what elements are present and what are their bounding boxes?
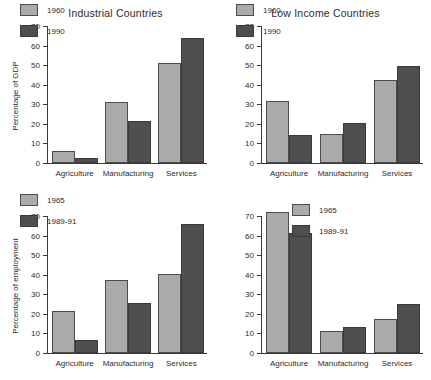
y-tick-mark [43,255,47,256]
bar [105,102,128,163]
y-tick-label: 20 [245,309,254,318]
bar-group: Services [374,26,420,163]
y-tick-label: 10 [245,329,254,338]
x-tick-label: Services [166,359,197,368]
y-tick-label: 20 [245,119,254,128]
y-tick-mark [43,143,47,144]
bar-group: Manufacturing [320,26,366,163]
y-tick-mark [43,294,47,295]
bar [320,134,343,163]
bar [52,311,75,353]
y-tick-mark [257,314,261,315]
bar-group: Services [158,26,204,163]
x-tick-label: Manufacturing [318,169,369,178]
legend-item: 1990 [20,25,65,37]
y-tick-label: 0 [36,159,40,168]
bar [320,331,343,353]
y-tick-mark [43,104,47,105]
x-tick-label: Agriculture [270,169,308,178]
x-tick-label: Agriculture [270,359,308,368]
y-tick-mark [257,85,261,86]
y-tick-mark [257,255,261,256]
legend-label: 1990 [263,27,281,36]
panel-lowincome-employment: 010203040506070 AgricultureManufacturing… [216,190,431,380]
x-axis-line [261,163,423,164]
x-tick-label: Manufacturing [103,169,154,178]
plot-area: 010203040506070 AgricultureManufacturing… [47,216,207,354]
legend-swatch [20,194,38,206]
bar [343,123,366,163]
legend: 19601990 [20,4,65,46]
y-tick-label: 60 [245,231,254,240]
bar-group: Agriculture [52,216,98,353]
y-tick-mark [43,85,47,86]
y-tick-mark [257,333,261,334]
y-tick-mark [43,163,47,164]
y-tick-label: 30 [31,290,40,299]
x-tick-label: Agriculture [56,359,94,368]
y-tick-label: 50 [245,61,254,70]
legend-swatch [236,25,254,37]
bar [266,101,289,163]
bar [52,151,75,163]
y-tick-label: 70 [245,212,254,221]
y-tick-mark [43,65,47,66]
y-tick-label: 10 [245,139,254,148]
bar [181,224,204,353]
legend-swatch [292,204,310,216]
y-tick-mark [257,353,261,354]
y-tick-label: 50 [31,251,40,260]
y-tick-mark [257,124,261,125]
bar [75,340,98,353]
x-axis-line [261,353,423,354]
plot-area: 010203040506070 AgricultureManufacturing… [261,26,423,164]
bar [128,121,151,163]
bar [158,274,181,353]
x-axis-line [47,353,207,354]
legend-swatch [20,215,38,227]
y-tick-label: 50 [31,61,40,70]
panel-lowincome-gdp: Low Income Countries 010203040506070 Agr… [216,0,431,190]
bar-group: Agriculture [266,26,312,163]
legend-item: 1989-91 [292,225,348,237]
legend-swatch [236,4,254,16]
bar [181,38,204,163]
x-tick-label: Manufacturing [103,359,154,368]
y-axis-label: Percentage of GDP [11,36,20,156]
bar [75,158,98,163]
y-tick-label: 30 [245,100,254,109]
y-tick-mark [43,124,47,125]
y-tick-label: 50 [245,251,254,260]
y-tick-label: 40 [245,270,254,279]
legend-item: 1960 [20,4,65,16]
y-tick-mark [257,236,261,237]
legend-swatch [20,25,38,37]
legend-label: 1960 [263,6,281,15]
bar [105,280,128,353]
legend-label: 1990 [47,27,65,36]
y-tick-mark [43,353,47,354]
legend-swatch [20,4,38,16]
legend-item: 1989-91 [20,215,76,227]
legend-label: 1965 [47,196,65,205]
y-tick-mark [43,275,47,276]
y-tick-label: 40 [245,80,254,89]
x-tick-label: Services [382,359,413,368]
x-tick-label: Services [166,169,197,178]
y-tick-label: 30 [31,100,40,109]
legend-label: 1965 [319,206,337,215]
bar-group: Services [158,216,204,353]
y-tick-mark [257,65,261,66]
y-tick-label: 10 [31,329,40,338]
legend-swatch [292,225,310,237]
y-tick-label: 20 [31,119,40,128]
bar [397,304,420,353]
y-axis-label: Percentage of employment [11,226,20,346]
x-tick-label: Manufacturing [318,359,369,368]
bar-group: Manufacturing [105,26,151,163]
x-axis-line [47,163,207,164]
legend-item: 1960 [236,4,281,16]
bar-group: Agriculture [52,26,98,163]
bar [158,63,181,163]
y-tick-mark [257,104,261,105]
